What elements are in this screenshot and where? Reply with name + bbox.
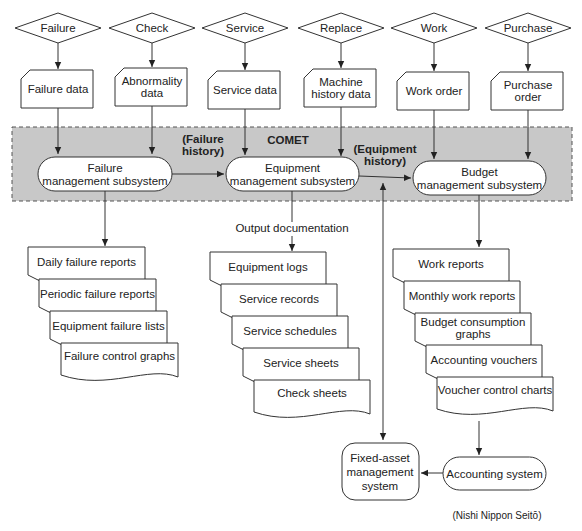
input-document-text: Service data [213,84,278,96]
input-document-text: history data [311,88,371,100]
input-documents: Failure dataAbnormalitydataService dataM… [21,68,563,110]
output-document: Voucher control charts [437,377,553,414]
output-document: Failure control graphs [61,343,178,380]
trigger-label: Service [226,22,264,34]
subsystems: Failuremanagement subsystemEquipmentmana… [38,157,546,195]
output-document: Periodic failure reports [39,279,156,313]
equipment-history-label-1: (Equipment [353,143,416,155]
input-document: Machinehistory data [304,69,376,107]
output-document: Service records [221,284,337,318]
output-document: Daily failure reports [28,247,145,281]
subsystem-text: management subsystem [42,175,167,187]
trigger-work: Work [391,13,477,43]
fixed-asset-system-node: Fixed-asset management system [342,443,419,500]
input-document: Work order [397,72,469,110]
output-document-text: Monthly work reports [409,290,516,302]
output-documentation-caption: Output documentation [235,222,348,234]
svg-text:Fixed-asset: Fixed-asset [350,452,410,464]
output-document-text: Voucher control charts [438,384,553,396]
output-document-text: Service schedules [243,325,337,337]
subsystem-text: management subsystem [417,179,542,191]
trigger-replace: Replace [298,13,384,43]
output-document-text: Check sheets [277,387,347,399]
output-document: Equipment failure lists [50,311,167,345]
budget-output-stack: Work reportsMonthly work reportsBudget c… [393,249,553,414]
input-document: Service data [208,71,280,109]
budget-management-subsystem: Budgetmanagement subsystem [413,161,546,195]
output-document: Check sheets [254,380,370,417]
svg-text:management: management [346,466,414,478]
output-document: Service schedules [232,316,348,350]
svg-text:Accounting system: Accounting system [446,468,543,480]
trigger-row: FailureCheckServiceReplaceWorkPurchase [15,13,571,43]
input-document-text: data [141,87,164,99]
equipment-management-subsystem: Equipmentmanagement subsystem [226,157,359,191]
output-document-text: Accounting vouchers [431,354,538,366]
input-document-text: Abnormality [122,75,183,87]
subsystem-text: Failure [87,162,122,174]
accounting-system-node: Accounting system [443,457,546,490]
output-document-text: Budget consumption [421,316,526,328]
trigger-service: Service [202,13,288,43]
output-document-text: Periodic failure reports [40,288,155,300]
trigger-check: Check [109,13,195,43]
output-document: Accounting vouchers [426,345,542,379]
input-document-text: order [515,91,542,103]
output-document-text: Equipment logs [228,261,308,273]
source-note: (Nishi Nippon Seitō) [453,510,542,521]
output-document: Work reports [393,249,509,283]
comet-system-diagram: COMET FailureCheckServiceReplaceWorkPurc… [0,0,582,531]
subsystem-text: Budget [461,166,498,178]
equipment-history-label-2: history) [364,155,406,167]
input-document-text: Purchase [504,79,553,91]
output-document-text: graphs [455,328,490,340]
trigger-label: Work [421,22,448,34]
output-document-text: Equipment failure lists [52,320,165,332]
subsystem-text: management subsystem [230,175,355,187]
input-document: Abnormalitydata [115,68,187,106]
output-document: Monthly work reports [404,281,520,315]
input-document: Failure data [21,70,93,108]
trigger-label: Check [136,22,169,34]
diagram-canvas: COMET FailureCheckServiceReplaceWorkPurc… [0,0,582,531]
output-document-text: Service sheets [263,357,339,369]
input-document-text: Machine [319,76,362,88]
output-document: Service sheets [243,348,359,382]
svg-text:system: system [362,480,398,492]
output-document-text: Work reports [418,258,484,270]
input-document-text: Failure data [28,83,89,95]
output-document: Budget consumptiongraphs [415,313,531,347]
failure-management-subsystem: Failuremanagement subsystem [38,157,172,191]
input-document: Purchaseorder [491,72,563,110]
output-document: Equipment logs [210,252,326,286]
failure-history-label-1: (Failure [182,133,224,145]
output-document-text: Daily failure reports [37,256,136,268]
output-document-text: Service records [239,293,319,305]
comet-label: COMET [267,134,309,146]
trigger-failure: Failure [15,13,101,43]
output-document-text: Failure control graphs [64,350,175,362]
trigger-label: Purchase [504,22,553,34]
input-document-text: Work order [406,85,463,97]
failure-output-stack: Daily failure reportsPeriodic failure re… [28,247,178,380]
trigger-label: Failure [40,22,75,34]
subsystem-text: Equipment [265,162,321,174]
trigger-purchase: Purchase [485,13,571,43]
trigger-label: Replace [320,22,362,34]
failure-history-label-2: history) [182,145,224,157]
equipment-output-stack: Equipment logsService recordsService sch… [210,252,370,417]
